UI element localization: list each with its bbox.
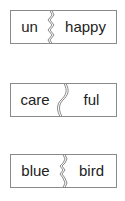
prefix-text: un <box>10 10 49 44</box>
word-card-careful: care ful <box>10 83 117 117</box>
suffix-text: bird <box>66 154 117 188</box>
word-card-bluebird: blue bird <box>10 154 117 188</box>
suffix-text: ful <box>66 83 117 117</box>
prefix-text: blue <box>10 154 61 188</box>
suffix-text: happy <box>54 10 117 44</box>
word-card-unhappy: un happy <box>10 10 117 44</box>
prefix-text: care <box>10 83 60 117</box>
